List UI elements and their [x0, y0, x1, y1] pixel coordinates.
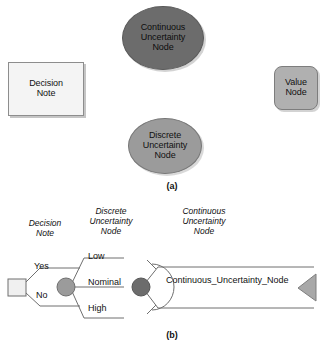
- discrete-chance-node-circle[interactable]: [57, 278, 75, 296]
- panel-a-caption: (a): [152, 181, 192, 191]
- panel-b-caption: (b): [152, 330, 192, 340]
- continuous-uncertainty-line3: Node: [141, 43, 186, 53]
- decision-note-node[interactable]: Decision Note: [8, 62, 84, 116]
- decision-note-line2: Note: [29, 89, 63, 99]
- branch-label-high: High: [88, 303, 107, 313]
- value-node-label: Value Node: [285, 78, 307, 97]
- continuous-uncertainty-node[interactable]: Continuous Uncertainty Node: [122, 6, 204, 70]
- branch-no-line: [26, 293, 80, 306]
- branch-label-low: Low: [88, 251, 105, 261]
- decision-note-label: Decision Note: [29, 79, 63, 98]
- value-node[interactable]: Value Node: [274, 66, 318, 110]
- branch-label-yes: Yes: [34, 261, 49, 271]
- continuous-chance-node-circle[interactable]: [132, 278, 150, 296]
- branch-label-nominal: Nominal: [88, 277, 121, 287]
- discrete-uncertainty-label: Discrete Uncertainty Node: [143, 131, 187, 160]
- decision-node-square[interactable]: [8, 279, 26, 296]
- branch-label-no: No: [36, 290, 48, 300]
- continuous-fan-bottom-rail: [142, 287, 314, 308]
- continuous-variable-label: Continuous_Uncertainty_Node: [166, 275, 289, 285]
- discrete-uncertainty-line3: Node: [143, 151, 187, 161]
- decision-tree-graphic: [0, 196, 333, 349]
- terminal-payoff-triangle-icon[interactable]: [298, 274, 316, 301]
- value-node-line2: Node: [285, 88, 307, 98]
- continuous-uncertainty-label: Continuous Uncertainty Node: [141, 23, 186, 52]
- influence-diagram-figure: Decision Note Continuous Uncertainty Nod…: [0, 0, 333, 349]
- discrete-uncertainty-node[interactable]: Discrete Uncertainty Node: [128, 118, 202, 174]
